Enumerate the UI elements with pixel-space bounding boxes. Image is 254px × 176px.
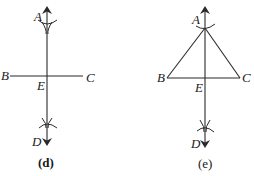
label-A: A bbox=[191, 12, 200, 27]
arc-bottom-2 bbox=[42, 118, 46, 128]
construction-diagrams: A B C E D (d) A B C E D (e) bbox=[0, 0, 254, 176]
arc-bottom-3 bbox=[48, 118, 52, 128]
label-B: B bbox=[1, 68, 9, 83]
label-E: E bbox=[194, 80, 203, 95]
label-C: C bbox=[242, 70, 251, 85]
label-B: B bbox=[157, 70, 165, 85]
label-E: E bbox=[36, 78, 45, 93]
caption-e: (e) bbox=[198, 156, 212, 171]
caption-d: (d) bbox=[38, 155, 54, 170]
segment-AB bbox=[167, 28, 205, 78]
label-A: A bbox=[33, 9, 42, 24]
segment-AC bbox=[205, 28, 240, 78]
arc-bottom-3 bbox=[206, 120, 210, 132]
label-D: D bbox=[190, 136, 201, 151]
arc-bottom-2 bbox=[200, 120, 204, 132]
label-D: D bbox=[31, 134, 42, 149]
figure-d: A B C E D (d) bbox=[1, 9, 95, 170]
label-C: C bbox=[86, 70, 95, 85]
figure-e: A B C E D (e) bbox=[157, 10, 251, 171]
